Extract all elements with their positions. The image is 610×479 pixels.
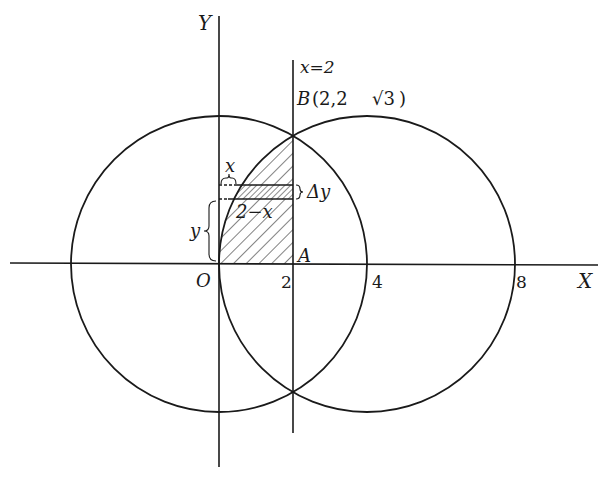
strip-dy-label: Δy xyxy=(306,181,331,202)
tick-2: 2 xyxy=(281,272,292,292)
y-brace xyxy=(204,201,216,261)
point-b-coords: (2,2 xyxy=(312,88,348,109)
line-x2-label: x=2 xyxy=(300,57,335,77)
x-axis-label: X xyxy=(576,269,593,293)
point-b-name: B xyxy=(296,88,310,109)
y-axis-label: Y xyxy=(198,11,213,35)
point-b-sqrt: √3 xyxy=(372,88,395,109)
tick-8: 8 xyxy=(516,272,527,292)
point-b-close: ) xyxy=(399,88,406,109)
axes xyxy=(10,16,598,467)
strip-x-label: x xyxy=(225,155,235,176)
tick-4: 4 xyxy=(372,272,383,292)
point-a-label: A xyxy=(296,245,311,266)
point-b-label: B (2,2 √3 ) xyxy=(296,88,406,109)
strip-width-label: 2−x xyxy=(235,201,273,222)
dy-brace xyxy=(296,185,303,199)
diagram-canvas: Y X O 2 4 8 x=2 B (2,2 √3 ) A x 2−x Δy y xyxy=(0,0,610,479)
strip-y-label: y xyxy=(189,220,201,241)
origin-label: O xyxy=(196,270,211,291)
